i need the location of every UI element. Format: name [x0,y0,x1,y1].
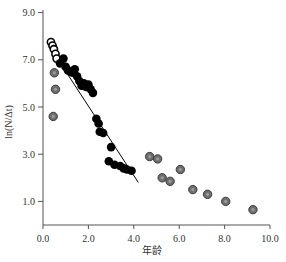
x-tick-label: 0.0 [37,233,50,244]
x-tick-label: 2.0 [82,233,95,244]
y-axis: 1.03.05.07.09.0 [23,7,44,225]
x-axis-label: 年龄 [142,244,162,256]
y-tick-label: 9.0 [23,7,36,18]
y-tick-label: 7.0 [23,54,36,65]
x-tick-label: 8.0 [218,233,231,244]
gray-point-center [179,168,182,171]
x-tick-label: 4.0 [128,233,141,244]
gray-point-center [148,155,151,158]
black-point [89,89,98,98]
gray-point-center [224,200,227,203]
gray-point-center [191,188,194,191]
gray-point-center [161,176,164,179]
black-point [99,129,108,138]
gray-point-center [54,88,57,91]
x-tick-label: 10.0 [261,233,279,244]
gray-point-center [53,71,56,74]
y-axis-label: ln(N/Δt) [3,105,15,139]
scatter-chart: 1.03.05.07.09.0 0.02.04.06.08.010.0 ln(N… [0,0,286,262]
x-axis: 0.02.04.06.08.010.0 [37,225,279,244]
y-tick-label: 1.0 [23,196,36,207]
black-point [107,143,116,152]
black-point [127,166,136,175]
y-tick-label: 3.0 [23,149,36,160]
x-tick-label: 6.0 [173,233,186,244]
gray-point-center [169,180,172,183]
gray-point-center [52,115,55,118]
y-tick-label: 5.0 [23,102,36,113]
black-point [94,119,103,128]
black-point [59,54,68,63]
gray-point-center [206,193,209,196]
gray-point-center [156,157,159,160]
gray-point-center [251,208,254,211]
data-points [47,39,257,214]
